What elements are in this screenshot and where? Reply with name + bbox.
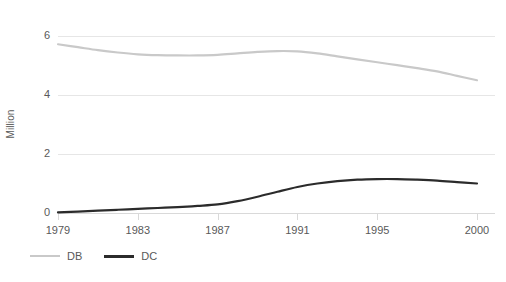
data-series-lines: [58, 44, 477, 212]
legend-item-db[interactable]: DB: [30, 250, 82, 262]
legend-label: DC: [141, 250, 157, 262]
y-axis-tick-label: 0: [28, 206, 50, 218]
x-axis-tick-label: 1979: [28, 224, 88, 236]
legend-swatch-dc: [104, 255, 134, 258]
legend-swatch-db: [30, 255, 60, 257]
x-axis-tick-label: 1983: [108, 224, 168, 236]
legend-label: DB: [67, 250, 82, 262]
x-axis-tick-label: 2000: [447, 224, 506, 236]
y-axis-title: Million: [5, 94, 16, 154]
legend-item-dc[interactable]: DC: [104, 250, 157, 262]
y-axis-tick-label: 2: [28, 147, 50, 159]
chart-plot-area: [0, 0, 506, 282]
chart-legend: DBDC: [30, 250, 157, 262]
y-axis-tick-label: 4: [28, 88, 50, 100]
line-chart: Million 0246 197919831987199119952000 DB…: [0, 0, 506, 282]
y-axis-tick-label: 6: [28, 29, 50, 41]
x-axis-tick-label: 1991: [267, 224, 327, 236]
series-line-dc: [58, 179, 477, 212]
series-line-db: [58, 44, 477, 80]
x-axis-tickmarks: [59, 214, 478, 220]
gridlines: [58, 37, 495, 214]
x-axis-tick-label: 1987: [188, 224, 248, 236]
x-axis-tick-label: 1995: [347, 224, 407, 236]
